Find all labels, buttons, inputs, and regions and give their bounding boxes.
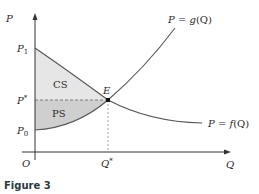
producer-surplus-region	[35, 100, 108, 130]
demand-curve-label: P = f(Q)	[207, 118, 249, 129]
p-star-label: P*	[16, 94, 28, 106]
p0-label: P0	[16, 125, 28, 138]
q-star-label: Q*	[101, 157, 113, 169]
equilibrium-point	[106, 98, 110, 102]
x-axis-label: Q	[226, 159, 234, 170]
equilibrium-label: E	[102, 85, 111, 96]
figure-caption: Figure 3	[4, 180, 51, 191]
supply-curve-label: P = g(Q)	[167, 14, 212, 25]
p1-label: P1	[16, 43, 28, 56]
surplus-diagram: P Q O P1 P* P0 Q* E CS PS P = g(Q) P = f…	[0, 0, 259, 194]
ps-label: PS	[52, 108, 66, 119]
x-axis-arrow-icon	[224, 150, 231, 155]
origin-label: O	[22, 158, 30, 169]
y-axis-label: P	[5, 13, 13, 24]
y-axis-arrow-icon	[33, 13, 38, 20]
cs-label: CS	[53, 79, 68, 90]
